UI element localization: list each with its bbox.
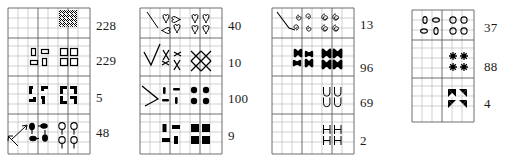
dither-checker-icon	[59, 10, 77, 27]
panel-4-count-1: 37	[484, 20, 497, 36]
panel-1-count-2: 229	[96, 53, 116, 69]
panel-1-count-4: 48	[96, 125, 109, 141]
panel-3-count-2: 96	[360, 60, 373, 76]
panel-2-grid	[140, 8, 222, 154]
panel-4-count-2: 88	[484, 59, 497, 75]
panel-1-count-3: 5	[96, 90, 103, 106]
panel-2: 40 10 100 9	[132, 0, 262, 162]
panel-2-count-2: 10	[228, 55, 241, 71]
panel-1-count-1: 228	[96, 18, 116, 34]
panel-3-count-3: 69	[360, 95, 373, 111]
panel-2-count-1: 40	[228, 18, 241, 34]
panel-2-graphic	[132, 0, 262, 162]
panel-4-count-3: 4	[484, 96, 491, 112]
panel-1-grid	[8, 8, 90, 154]
panel-2-count-3: 100	[228, 91, 248, 107]
panel-1: 228 229 5 48	[0, 0, 130, 162]
panel-3-count-4: 2	[360, 133, 367, 149]
panel-2-count-4: 9	[228, 128, 235, 144]
panel-4: 37 88 4	[404, 0, 507, 162]
panel-3-graphic	[264, 0, 394, 162]
panel-3: 13 96 69 2	[264, 0, 394, 162]
panel-3-grid	[272, 8, 354, 154]
panel-3-count-1: 13	[360, 17, 373, 33]
figure-canvas: 228 229 5 48	[0, 0, 507, 162]
